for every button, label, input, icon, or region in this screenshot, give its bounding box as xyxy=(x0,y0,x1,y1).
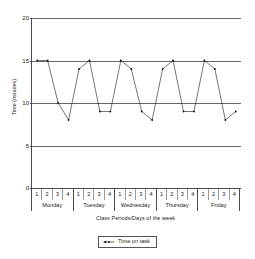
period-tick-monday-2: 2 xyxy=(42,189,52,200)
data-point xyxy=(47,60,49,62)
legend-label-time-on-task: Time on task xyxy=(118,238,150,245)
data-point xyxy=(89,60,91,62)
day-label-thursday: Thursday xyxy=(156,200,198,211)
period-tick-wednesday-3: 3 xyxy=(136,189,146,200)
data-point xyxy=(141,111,143,113)
period-group-tuesday: 1234 xyxy=(73,189,115,200)
data-point xyxy=(183,111,185,113)
period-group-wednesday: 1234 xyxy=(114,189,156,200)
data-point xyxy=(162,68,164,70)
day-label-tuesday: Tuesday xyxy=(73,200,115,211)
data-point xyxy=(214,68,216,70)
period-tick-monday-4: 4 xyxy=(63,189,72,200)
period-group-thursday: 1234 xyxy=(156,189,198,200)
period-group-monday: 1234 xyxy=(31,189,73,200)
day-label-monday: Monday xyxy=(31,200,73,211)
period-tick-friday-2: 2 xyxy=(209,189,219,200)
period-group-friday: 1234 xyxy=(197,189,240,200)
period-tick-thursday-2: 2 xyxy=(167,189,177,200)
data-point xyxy=(172,60,174,62)
data-point xyxy=(224,119,226,121)
time-on-task-line-chart: Time (minutes) 05101520 1234123412341234… xyxy=(0,0,255,259)
y-axis-title: Time (minutes) xyxy=(11,52,17,142)
data-point xyxy=(99,111,101,113)
period-tick-thursday-1: 1 xyxy=(157,189,167,200)
plot-area: 05101520 xyxy=(31,18,241,188)
period-tick-tuesday-1: 1 xyxy=(74,189,84,200)
data-point xyxy=(78,68,80,70)
period-tick-wednesday-4: 4 xyxy=(146,189,155,200)
day-label-friday: Friday xyxy=(197,200,240,211)
series-time-on-task xyxy=(32,18,241,188)
legend-box: Time on task xyxy=(98,236,157,248)
data-point xyxy=(203,60,205,62)
y-tick-label-5: 5 xyxy=(26,143,29,149)
data-point xyxy=(193,111,195,113)
y-tick-label-0: 0 xyxy=(26,185,29,191)
x-axis-day-labels: MondayTuesdayWednesdayThursdayFriday xyxy=(31,200,240,211)
period-tick-tuesday-4: 4 xyxy=(105,189,114,200)
period-tick-thursday-4: 4 xyxy=(188,189,197,200)
y-tick-label-10: 10 xyxy=(22,100,29,106)
series-polyline xyxy=(37,61,236,121)
period-tick-wednesday-1: 1 xyxy=(115,189,125,200)
data-point xyxy=(57,102,59,104)
period-tick-friday-3: 3 xyxy=(219,189,229,200)
period-tick-friday-4: 4 xyxy=(230,189,239,200)
data-point xyxy=(120,60,122,62)
y-tick-label-20: 20 xyxy=(22,15,29,21)
data-point xyxy=(109,111,111,113)
period-tick-monday-1: 1 xyxy=(32,189,42,200)
period-tick-monday-3: 3 xyxy=(53,189,63,200)
data-point xyxy=(235,111,237,113)
data-point xyxy=(151,119,153,121)
period-tick-thursday-3: 3 xyxy=(178,189,188,200)
data-point xyxy=(36,60,38,62)
day-label-wednesday: Wednesday xyxy=(114,200,156,211)
chart-legend: Time on task xyxy=(0,236,255,248)
y-tick-label-15: 15 xyxy=(22,58,29,64)
period-tick-wednesday-2: 2 xyxy=(126,189,136,200)
period-tick-tuesday-3: 3 xyxy=(94,189,104,200)
period-tick-tuesday-2: 2 xyxy=(84,189,94,200)
data-point xyxy=(68,119,70,121)
period-tick-friday-1: 1 xyxy=(198,189,208,200)
data-point xyxy=(130,68,132,70)
x-axis-title: Class Periods/Days of the week xyxy=(31,215,240,221)
legend-line-marker-icon xyxy=(103,239,115,245)
x-axis-period-ticks: 12341234123412341234 xyxy=(31,189,240,200)
